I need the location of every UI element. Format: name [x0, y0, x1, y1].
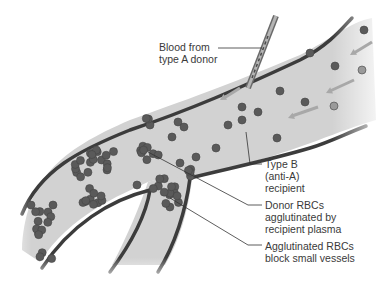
red-blood-cell-icon — [306, 49, 314, 57]
label-donor-rbcs-agglutinated: Donor RBCs agglutinated by recipient pla… — [265, 199, 341, 235]
red-blood-cell-icon — [77, 173, 85, 181]
red-blood-cell-icon — [254, 108, 262, 116]
label-line: Type B — [265, 158, 305, 170]
red-blood-cell-icon — [224, 121, 232, 129]
red-blood-cell-icon — [168, 133, 176, 141]
label-line: recipient — [265, 182, 305, 194]
red-blood-cell-icon — [32, 208, 40, 216]
label-line: (anti-A) — [265, 170, 305, 182]
red-blood-cell-icon — [276, 87, 284, 95]
label-line: agglutinated by — [265, 211, 341, 223]
red-blood-cell-icon — [103, 164, 111, 172]
red-blood-cell-icon — [168, 183, 176, 191]
red-blood-cell-icon — [176, 159, 184, 167]
red-blood-cell-icon — [180, 123, 188, 131]
label-line: Donor RBCs — [265, 199, 341, 211]
label-line: block small vessels — [265, 252, 355, 264]
red-blood-cell-icon — [192, 153, 200, 161]
red-blood-cell-icon — [238, 103, 246, 111]
red-blood-cell-icon — [110, 148, 118, 156]
red-blood-cell-icon — [173, 192, 181, 200]
red-blood-cell-icon — [142, 115, 150, 123]
label-agglutinated-block-vessels: Agglutinated RBCs block small vessels — [265, 240, 355, 264]
red-blood-cell-icon — [44, 218, 52, 226]
red-blood-cell-icon — [162, 199, 170, 207]
label-line: Blood from — [159, 41, 217, 53]
red-blood-cell-icon — [140, 146, 148, 154]
red-blood-cell-icon — [238, 116, 246, 124]
label-line: recipient plasma — [265, 223, 341, 235]
red-blood-cell-icon — [84, 168, 92, 176]
label-type-b-recipient: Type B (anti-A) recipient — [265, 158, 305, 194]
label-line: Agglutinated RBCs — [265, 240, 355, 252]
red-blood-cell-icon — [82, 197, 90, 205]
red-blood-cell-icon — [360, 26, 368, 34]
red-blood-cell-icon — [48, 255, 56, 263]
red-blood-cell-icon — [102, 151, 110, 159]
red-blood-cell-icon — [149, 185, 157, 193]
red-blood-cell-icon — [76, 156, 84, 164]
red-blood-cell-icon — [89, 200, 97, 208]
red-blood-cell-icon — [133, 181, 141, 189]
red-blood-cell-icon — [90, 189, 98, 197]
red-blood-cell-icon — [27, 201, 35, 209]
red-blood-cell-icon — [36, 253, 44, 261]
red-blood-cell-icon — [160, 188, 168, 196]
transfusion-diagram: Blood from type A donor Type B (anti-A) … — [0, 0, 391, 286]
label-line: type A donor — [159, 53, 217, 65]
red-blood-cell-icon — [143, 156, 151, 164]
red-blood-cell-icon — [156, 175, 164, 183]
red-blood-cell-icon — [34, 217, 42, 225]
red-blood-cell-icon — [49, 201, 57, 209]
red-blood-cell-icon — [212, 144, 220, 152]
red-blood-cell-icon — [97, 192, 105, 200]
red-blood-cell-icon — [331, 62, 339, 70]
red-blood-cell-icon — [330, 102, 338, 110]
red-blood-cell-icon — [88, 151, 96, 159]
red-blood-cell-icon — [358, 66, 366, 74]
red-blood-cell-icon — [301, 98, 309, 106]
red-blood-cell-icon — [273, 134, 281, 142]
red-blood-cell-icon — [35, 231, 43, 239]
label-blood-from-donor: Blood from type A donor — [159, 41, 217, 65]
